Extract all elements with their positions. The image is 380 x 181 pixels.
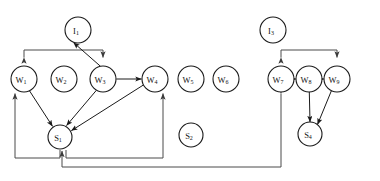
edge-w3-s1 (67, 90, 97, 125)
node-W5[interactable]: W5 (178, 66, 204, 92)
edge-route-w7-to-s1 (62, 94, 281, 168)
node-W9[interactable]: W9 (324, 66, 350, 92)
node-I1[interactable]: I1 (65, 17, 91, 43)
node-W8[interactable]: W8 (296, 66, 322, 92)
node-S1[interactable]: S1 (48, 125, 72, 149)
node-W4[interactable]: W4 (142, 66, 168, 92)
node-W7[interactable]: W7 (268, 66, 294, 92)
edge-w1-s1 (30, 91, 53, 127)
node-I3[interactable]: I3 (260, 17, 286, 43)
node-S4[interactable]: S4 (298, 122, 322, 146)
edge-bracket-w7-w9 (281, 50, 337, 58)
node-W2[interactable]: W2 (51, 66, 77, 92)
edge-w9-s4 (318, 91, 332, 125)
edge-w8-s4 (309, 92, 310, 122)
node-W6[interactable]: W6 (213, 66, 239, 92)
edge-bracket-w1-w3 (24, 50, 103, 58)
node-W1[interactable]: W1 (11, 66, 37, 92)
network-diagram: I1 I3 W1 W2 W3 W4 W5 W6 (0, 0, 380, 181)
graph-canvas: I1 I3 W1 W2 W3 W4 W5 W6 (0, 0, 380, 181)
node-W3[interactable]: W3 (90, 66, 116, 92)
node-S2[interactable]: S2 (179, 123, 203, 147)
edge-w3-i1 (74, 43, 101, 67)
